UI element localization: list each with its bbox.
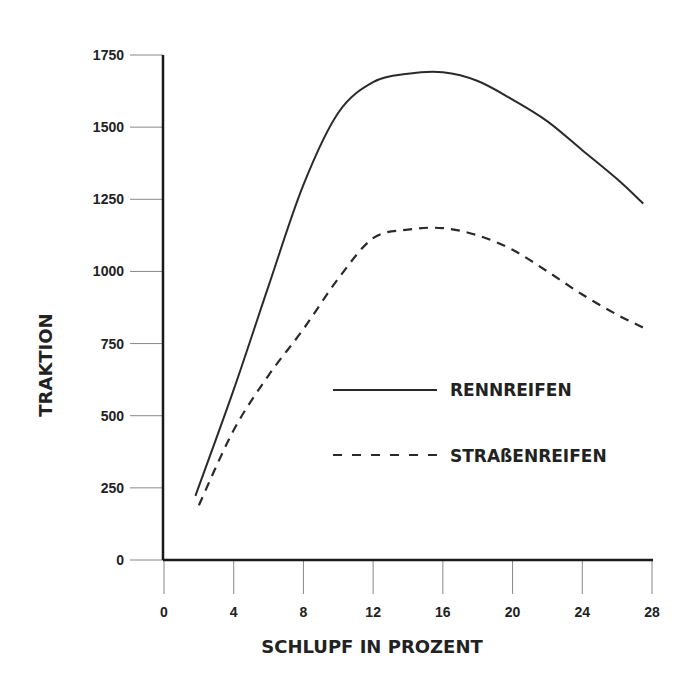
- x-tick-label: 24: [574, 604, 590, 620]
- y-tick-label: 750: [101, 336, 125, 352]
- x-tick-label: 4: [230, 604, 238, 620]
- rennreifen-curve: [195, 72, 643, 496]
- y-axis-title: TRAKTION: [35, 313, 56, 416]
- x-tick-label: 8: [300, 604, 308, 620]
- x-tick-label: 28: [644, 604, 660, 620]
- y-tick-label: 1000: [93, 263, 124, 279]
- x-tick-label: 16: [435, 604, 451, 620]
- y-tick-label: 1250: [93, 191, 124, 207]
- legend: RENNREIFEN STRAßENREIFEN: [333, 380, 607, 466]
- x-tick-label: 0: [160, 604, 168, 620]
- y-tick-label: 500: [101, 408, 125, 424]
- y-axis-ticks: 02505007501000125015001750: [93, 47, 163, 568]
- y-tick-label: 0: [116, 552, 124, 568]
- x-axis-ticks: 0481216202428: [160, 560, 660, 620]
- legend-label-strassenreifen: STRAßENREIFEN: [450, 446, 607, 466]
- x-axis-title: SCHLUPF IN PROZENT: [261, 636, 483, 657]
- y-tick-label: 250: [101, 480, 125, 496]
- x-tick-label: 12: [365, 604, 381, 620]
- y-tick-label: 1500: [93, 119, 124, 135]
- y-tick-label: 1750: [93, 47, 124, 63]
- x-tick-label: 20: [505, 604, 521, 620]
- legend-label-rennreifen: RENNREIFEN: [450, 380, 572, 400]
- traction-chart: 02505007501000125015001750 0481216202428…: [0, 0, 695, 691]
